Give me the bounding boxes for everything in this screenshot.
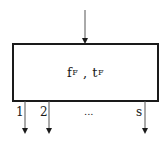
- t-subscript: F: [98, 68, 104, 77]
- output-label-s: s: [136, 106, 142, 118]
- output-label-1: 1: [16, 106, 24, 118]
- ellipsis: ...: [84, 106, 94, 118]
- output-arrow-s: [142, 101, 148, 134]
- input-arrow: [82, 10, 88, 44]
- output-label-2: 2: [40, 106, 48, 118]
- block-label: fF , tF: [13, 44, 158, 101]
- label-separator: ,: [78, 65, 92, 80]
